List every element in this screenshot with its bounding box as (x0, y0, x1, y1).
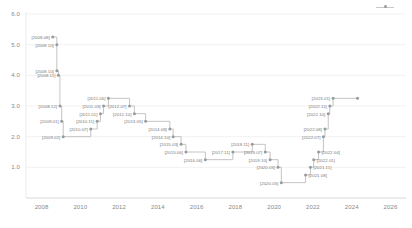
x-tick-label: 2020 (257, 204, 291, 210)
legend-marker-icon (384, 5, 387, 8)
point-label: [2019.07] (244, 150, 262, 155)
point-label: [2022.11] (309, 104, 327, 109)
point-label: [2008.10] (36, 42, 54, 47)
point-label: [2019.10] (249, 157, 267, 162)
point-label: [2012.07] (108, 104, 126, 109)
point-label: [2018.11] (231, 142, 249, 147)
y-tick-label: 1.0 (0, 164, 20, 170)
x-tick-label: 2012 (102, 204, 136, 210)
point-label: [2009.02] (42, 134, 60, 139)
y-tick-label: 2.0 (0, 134, 20, 140)
y-tick-label: 3.0 (0, 103, 20, 109)
point-label: [2016.06] (184, 157, 202, 162)
x-tick-label: 2024 (335, 204, 369, 210)
point-label: [2008.12] (39, 104, 57, 109)
chart-container: 1.02.03.04.05.06.0 200820102012201420162… (0, 0, 412, 228)
point-label: [2013.05] (124, 119, 142, 124)
point-label: [2021.08] (309, 173, 327, 178)
point-label: [2010.11] (76, 119, 94, 124)
point-label: [2014.10] (152, 134, 170, 139)
x-tick-label: 2008 (25, 204, 59, 210)
x-tick-label: 2018 (218, 204, 252, 210)
y-tick-label: 5.0 (0, 42, 20, 48)
point-label: [2008.11] (37, 73, 55, 78)
point-label: [2011.03] (83, 104, 101, 109)
point-label: [2020.05] (260, 180, 278, 185)
point-label: [2022.10] (307, 111, 325, 116)
point-label: [2015.03] (160, 142, 178, 147)
point-label: [2014.08] (149, 127, 167, 132)
chart-plot-svg (0, 0, 412, 228)
x-tick-label: 2026 (373, 204, 407, 210)
point-label: [2011.06] (87, 96, 105, 101)
point-label: [2011.01] (79, 111, 97, 116)
y-tick-label: 6.0 (0, 11, 20, 17)
point-label: [2020.03] (257, 165, 275, 170)
point-label: [2012.10] (113, 111, 131, 116)
point-label: [2008.08] (31, 35, 49, 40)
point-label: [2023.01] (312, 96, 330, 101)
x-tick-label: 2010 (63, 204, 97, 210)
point-label: [2022.04] (322, 150, 340, 155)
series-markers (51, 36, 359, 185)
x-tick-label: 2014 (141, 204, 175, 210)
x-tick-label: 2016 (180, 204, 214, 210)
x-tick-label: 2022 (296, 204, 330, 210)
point-label: [2015.06] (165, 150, 183, 155)
point-label: [2010.07] (69, 127, 87, 132)
chart-legend[interactable] (376, 4, 406, 11)
y-tick-label: 4.0 (0, 72, 20, 78)
point-label: [2009.01] (40, 119, 58, 124)
point-label: [2022.07] (302, 134, 320, 139)
point-label: [2017.11] (212, 150, 230, 155)
point-label: [2022.08] (304, 127, 322, 132)
point-label: [2022.01] (317, 157, 335, 162)
point-label: [2021.11] (313, 165, 331, 170)
